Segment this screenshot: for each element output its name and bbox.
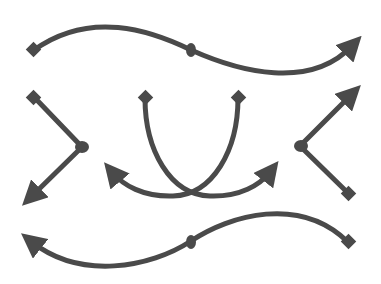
midpoint-handle-icon[interactable] — [186, 43, 196, 57]
right-chevron-connector[interactable] — [294, 95, 356, 201]
top-wave-connector[interactable] — [26, 27, 352, 73]
center-curve-a-connector[interactable] — [138, 90, 270, 196]
connector-diagram — [0, 0, 381, 284]
left-chevron-connector[interactable] — [26, 90, 89, 196]
bottom-wave-connector[interactable] — [32, 214, 356, 266]
diamond-handle-icon[interactable] — [231, 90, 247, 106]
center-curve-b-connector[interactable] — [113, 90, 246, 196]
midpoint-handle-icon[interactable] — [75, 141, 89, 153]
midpoint-handle-icon[interactable] — [294, 140, 308, 152]
midpoint-handle-icon[interactable] — [186, 235, 196, 249]
diamond-handle-icon[interactable] — [138, 90, 154, 106]
